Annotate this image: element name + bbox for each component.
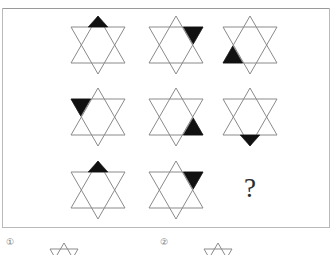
hexagram-svg: [60, 157, 136, 223]
matrix-cell-r2c2[interactable]: [138, 84, 214, 150]
option-2-number: ②: [160, 237, 168, 247]
hexagram-svg: [138, 84, 214, 150]
hexagram-svg: [44, 241, 84, 255]
matrix-grid: ?: [60, 12, 310, 217]
hexagram-svg: [212, 12, 288, 78]
answer-option-1[interactable]: ①: [6, 232, 126, 255]
hexagram-svg: [198, 241, 238, 255]
star-icon: [138, 157, 214, 223]
star-icon: [212, 12, 288, 78]
matrix-cell-r2c3[interactable]: [212, 84, 288, 150]
star-icon: [198, 241, 238, 255]
question-mark: ?: [212, 157, 288, 223]
matrix-cell-r1c2[interactable]: [138, 12, 214, 78]
star-icon: [60, 84, 136, 150]
matrix-cell-r3c3[interactable]: ?: [212, 157, 288, 223]
matrix-cell-r1c3[interactable]: [212, 12, 288, 78]
hexagram-svg: [138, 12, 214, 78]
star-icon: [44, 241, 84, 255]
star-icon: [60, 157, 136, 223]
hexagram-svg: [60, 84, 136, 150]
matrix-cell-r1c1[interactable]: [60, 12, 136, 78]
option-1-number: ①: [6, 237, 14, 247]
hexagram-svg: [60, 12, 136, 78]
star-icon: [60, 12, 136, 78]
hexagram-svg: [138, 157, 214, 223]
matrix-cell-r3c2[interactable]: [138, 157, 214, 223]
hexagram-svg: [212, 84, 288, 150]
matrix-cell-r3c1[interactable]: [60, 157, 136, 223]
star-icon: [138, 12, 214, 78]
star-icon: [212, 84, 288, 150]
answer-option-2[interactable]: ②: [160, 232, 280, 255]
answer-options-strip: ① ②: [0, 232, 325, 255]
matrix-cell-r2c1[interactable]: [60, 84, 136, 150]
star-icon: [138, 84, 214, 150]
